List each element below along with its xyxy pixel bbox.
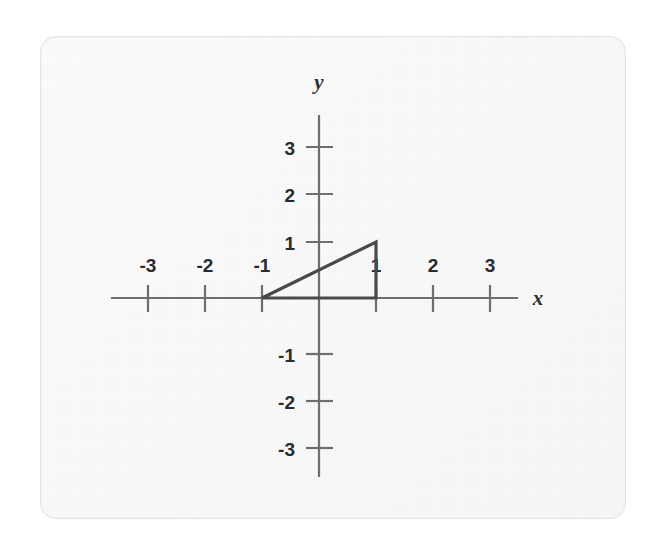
x-tick-label-neg2: -2 [197, 255, 214, 276]
x-axis-label: x [532, 286, 544, 310]
x-tick-label-neg1: -1 [254, 255, 271, 276]
y-tick-label-neg1: -1 [278, 345, 295, 366]
coordinate-plane-card: -3 -2 -1 1 2 3 3 2 1 -1 -2 -3 y [40, 36, 626, 519]
y-axis-label: y [311, 70, 324, 94]
x-tick-label-pos3: 3 [485, 255, 496, 276]
y-tick-label-neg2: -2 [278, 392, 295, 413]
y-tick-label-pos2: 2 [284, 185, 295, 206]
x-tick-label-pos2: 2 [428, 255, 439, 276]
y-tick-label-neg3: -3 [278, 439, 295, 460]
figure-root: -3 -2 -1 1 2 3 3 2 1 -1 -2 -3 y [0, 0, 658, 549]
coordinate-plane-svg: -3 -2 -1 1 2 3 3 2 1 -1 -2 -3 y [41, 37, 625, 518]
x-tick-labels: -3 -2 -1 1 2 3 [140, 255, 496, 276]
x-tick-label-neg3: -3 [140, 255, 157, 276]
y-tick-label-pos1: 1 [284, 233, 295, 254]
axes-group [111, 115, 518, 477]
y-tick-label-pos3: 3 [284, 138, 295, 159]
